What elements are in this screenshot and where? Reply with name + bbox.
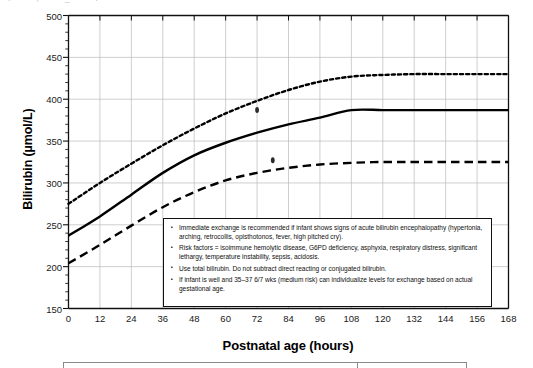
annotation-bullet-1: Risk factors = isoimmune hemolytic disea… — [171, 244, 484, 262]
x-tick-label-36: 36 — [157, 313, 168, 324]
bilirubin-exchange-transfusion-chart: . , _ . Bilirubin (µmol/L) Postnatal age… — [0, 0, 533, 368]
annotation-bullet-list: Immediate exchange is recommended if inf… — [171, 224, 484, 294]
footer-divider-right-tick — [466, 362, 467, 368]
annotation-bullet-0: Immediate exchange is recommended if inf… — [171, 224, 484, 242]
x-tick-label-24: 24 — [126, 313, 137, 324]
x-tick-label-156: 156 — [469, 313, 485, 324]
x-axis-title: Postnatal age (hours) — [68, 338, 508, 353]
x-tick-label-48: 48 — [189, 313, 200, 324]
x-tick-label-144: 144 — [438, 313, 454, 324]
annotation-bullet-3: If infant is well and 35–37 6/7 wks (med… — [171, 276, 484, 294]
y-tick-label-300: 300 — [30, 177, 62, 188]
x-tick-label-108: 108 — [343, 313, 359, 324]
annotation-note-box: Immediate exchange is recommended if inf… — [163, 218, 492, 307]
y-tick-label-450: 450 — [30, 52, 62, 63]
curve-marker-1 — [271, 157, 275, 163]
curve-markers — [255, 107, 275, 163]
x-tick-label-0: 0 — [66, 313, 71, 324]
annotation-bullet-2: Use total bilirubin. Do not subtract dir… — [171, 265, 484, 274]
footer-divider-mid-tick — [357, 362, 358, 368]
y-tick-label-350: 350 — [30, 136, 62, 147]
x-tick-label-168: 168 — [501, 313, 517, 324]
y-tick-label-150: 150 — [30, 303, 62, 314]
y-tick-label-200: 200 — [30, 261, 62, 272]
x-tick-label-96: 96 — [315, 313, 326, 324]
footer-divider-left-tick — [63, 362, 64, 368]
curve-marker-0 — [255, 107, 259, 113]
footer-divider-rule — [63, 362, 467, 363]
y-tick-label-500: 500 — [30, 10, 62, 21]
y-tick-label-250: 250 — [30, 219, 62, 230]
x-tick-label-12: 12 — [95, 313, 106, 324]
x-tick-label-132: 132 — [406, 313, 422, 324]
x-tick-label-120: 120 — [375, 313, 391, 324]
x-tick-label-84: 84 — [283, 313, 294, 324]
x-tick-label-72: 72 — [252, 313, 263, 324]
x-tick-label-60: 60 — [220, 313, 231, 324]
y-tick-label-400: 400 — [30, 94, 62, 105]
